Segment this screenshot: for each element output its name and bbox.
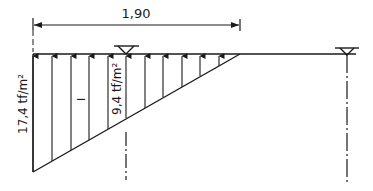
max-load-label: 17,4 tf/m² — [16, 74, 30, 134]
right-support-icon — [335, 48, 359, 182]
mid-load-label: 9,4 tf/m² — [110, 62, 124, 115]
dimension-line — [33, 18, 240, 52]
load-diagram: 1,90 17,4 tf/m² 9,4 tf/m² I — [0, 0, 373, 191]
region-marker: I — [75, 98, 88, 101]
dimension-label: 1,90 — [122, 6, 151, 21]
triangular-load — [33, 54, 240, 172]
